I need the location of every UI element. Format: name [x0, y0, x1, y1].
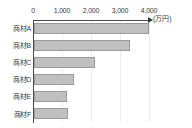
x-tick-label-3000: 3,000 [112, 6, 129, 15]
bar-c [34, 57, 95, 68]
category-label-f: 商材F [0, 105, 31, 122]
category-label-a: 商材A [0, 20, 31, 37]
bar-row: 商材C [0, 54, 192, 71]
bar-rows: 商材A 商材B 商材C 商材D 商材E 商材F [0, 20, 192, 124]
x-tick-label-0: 0 [31, 6, 35, 15]
category-label-e: 商材E [0, 88, 31, 105]
bar-row: 商材A [0, 20, 192, 37]
bar-b [34, 40, 130, 51]
bar-row: 商材E [0, 88, 192, 105]
bar-d [34, 74, 74, 85]
x-tick-label-1000: 1,000 [54, 6, 71, 15]
x-tick-label-2000: 2,000 [83, 6, 100, 15]
category-label-b: 商材B [0, 37, 31, 54]
bar-row: 商材D [0, 71, 192, 88]
category-label-d: 商材D [0, 71, 31, 88]
bar-row: 商材B [0, 37, 192, 54]
category-label-c: 商材C [0, 54, 31, 71]
bar-row: 商材F [0, 105, 192, 122]
bar-f [34, 108, 68, 119]
bar-a [34, 23, 149, 34]
bar-e [34, 91, 67, 102]
bar-chart: 0 1,000 2,000 3,000 4,000 (万円) 商材A 商材B 商… [0, 0, 192, 128]
